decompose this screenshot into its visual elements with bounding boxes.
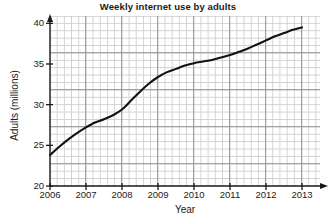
plot-area [50,16,320,186]
x-tick-label: 2008 [102,189,142,200]
y-tick-label: 35 [18,59,44,69]
x-tick-label: 2007 [66,189,106,200]
internet-use-curve [50,27,302,155]
y-tick-label: 40 [18,18,44,28]
y-tick-label: 30 [18,100,44,110]
x-tick-label: 2006 [30,189,70,200]
chart-title: Weekly internet use by adults [0,1,336,12]
x-tick-label: 2013 [282,189,322,200]
x-tick-label: 2010 [174,189,214,200]
x-tick-label: 2012 [246,189,286,200]
x-tick-label: 2011 [210,189,250,200]
x-tick-label: 2009 [138,189,178,200]
data-series-line [50,16,320,186]
chart-screenshot: Weekly internet use by adults 2025303540… [0,0,336,223]
y-axis-title: Adults (millions) [9,46,20,166]
y-tick-label: 25 [18,140,44,150]
x-axis-title: Year [50,204,320,215]
